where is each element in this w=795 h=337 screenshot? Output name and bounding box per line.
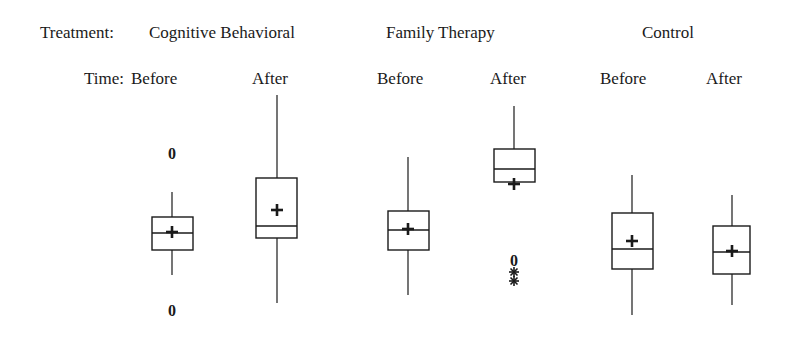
boxplot-family-therapy-after: 0 <box>494 106 535 286</box>
mean-plus-icon <box>402 223 414 235</box>
mild-outlier-marker: 0 <box>168 302 176 319</box>
mean-plus-icon <box>726 245 738 257</box>
mild-outlier-marker: 0 <box>168 145 176 162</box>
mean-plus-icon <box>166 226 178 238</box>
boxplot-cognitive-behavioral-after <box>256 95 297 303</box>
boxplot-control-before <box>612 175 653 315</box>
mild-outlier-marker: 0 <box>510 252 518 269</box>
boxplot-area: 000 <box>0 0 795 337</box>
extreme-outlier-star-icon <box>509 267 519 277</box>
mean-plus-icon <box>626 235 638 247</box>
boxplot-cognitive-behavioral-before: 00 <box>152 145 193 319</box>
mean-plus-icon <box>508 178 520 190</box>
boxplot-control-after <box>713 195 750 305</box>
extreme-outlier-star-icon <box>509 276 519 286</box>
boxplot-family-therapy-before <box>388 157 429 295</box>
mean-plus-icon <box>271 204 283 216</box>
iqr-box <box>494 149 535 182</box>
